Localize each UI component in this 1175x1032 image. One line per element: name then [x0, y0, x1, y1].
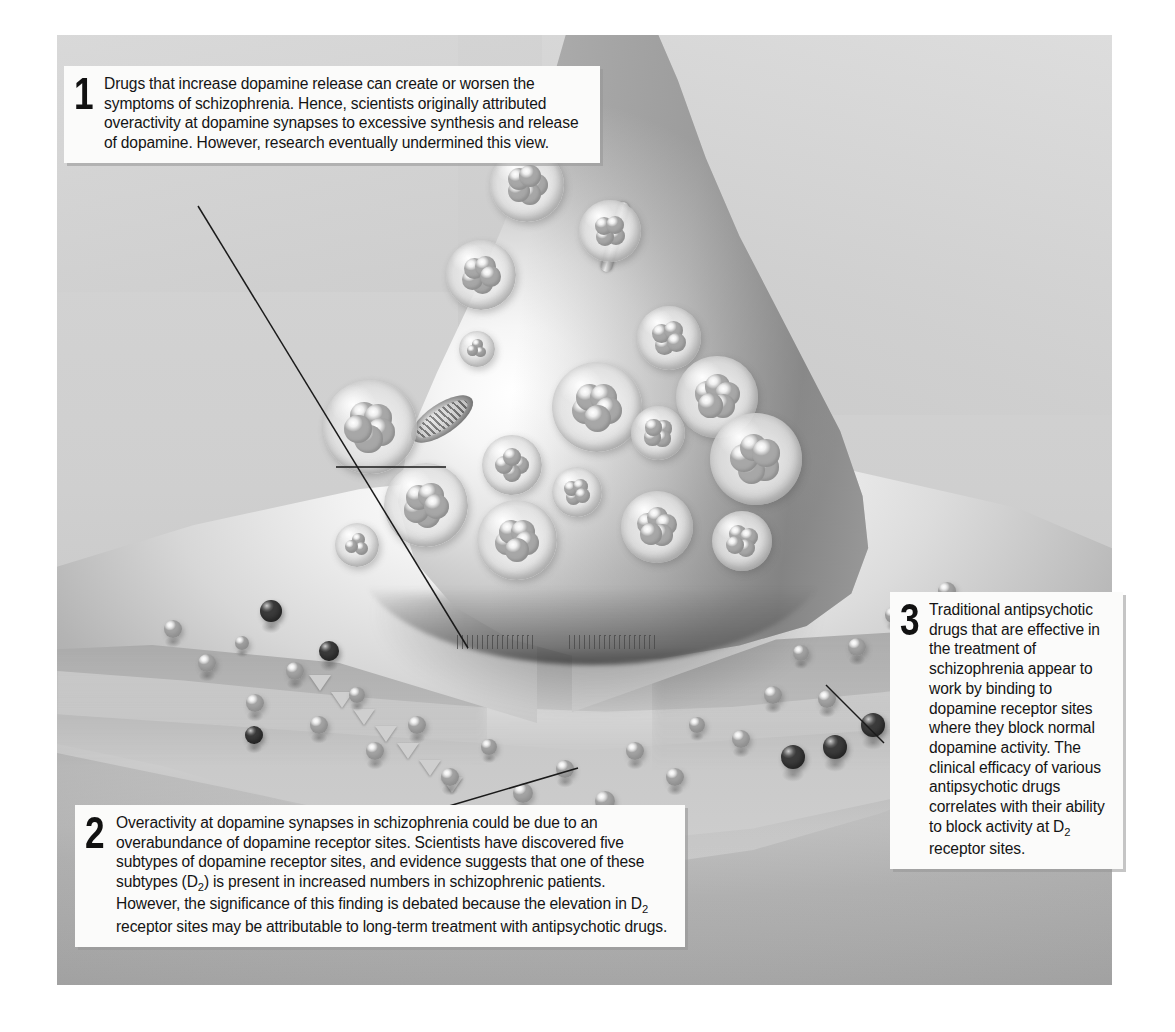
dopamine-molecule	[286, 662, 304, 680]
dopamine-molecule	[164, 620, 182, 638]
dopamine-molecule-in-vesicle	[698, 393, 723, 418]
dopamine-molecule-in-vesicle	[467, 345, 478, 356]
synaptic-vesicle	[637, 306, 701, 370]
synaptic-vesicle	[712, 511, 772, 571]
receptor-site	[375, 726, 397, 742]
callout-1-text: Drugs that increase dopamine release can…	[104, 74, 588, 153]
dopamine-molecule	[818, 690, 836, 708]
antipsychotic-drug-molecule	[319, 641, 339, 661]
subscript-d2-c: 2	[1064, 826, 1070, 838]
antipsychotic-drug-molecule	[260, 600, 282, 622]
dopamine-molecule	[626, 742, 644, 760]
dopamine-molecule	[408, 716, 426, 734]
dopamine-molecule-in-vesicle	[726, 536, 744, 554]
dopamine-molecule	[246, 694, 264, 712]
synaptic-vesicle	[482, 435, 542, 495]
subscript-d2-b: 2	[642, 904, 648, 916]
callout-3[interactable]: 3 Traditional antipsychotic drugs that a…	[890, 592, 1123, 869]
dopamine-molecule	[481, 739, 497, 755]
dopamine-molecule	[441, 768, 459, 786]
dopamine-molecule	[666, 768, 684, 786]
dopamine-molecule	[349, 687, 365, 703]
dopamine-molecule	[764, 686, 782, 704]
synaptic-vesicle	[477, 500, 557, 580]
synaptic-vesicle	[710, 413, 802, 505]
synaptic-vesicle	[384, 463, 468, 547]
dopamine-molecule-in-vesicle	[645, 419, 661, 435]
dopamine-molecule-in-vesicle	[640, 523, 662, 545]
dopamine-molecule	[556, 760, 574, 778]
callout-1[interactable]: 1 Drugs that increase dopamine release c…	[64, 66, 600, 163]
synaptic-vesicle	[579, 200, 641, 262]
synaptic-vesicle	[631, 406, 685, 460]
dopamine-molecule-in-vesicle	[575, 488, 590, 503]
synaptic-vesicle	[552, 467, 602, 517]
dopamine-molecule	[793, 645, 809, 661]
dopamine-molecule	[513, 783, 533, 803]
callout-1-number: 1	[74, 75, 92, 113]
dopamine-molecule	[310, 716, 328, 734]
vesicle-release-site	[569, 635, 655, 649]
dopamine-molecule-in-vesicle	[519, 165, 541, 187]
dopamine-molecule	[732, 730, 750, 748]
callout-3-text: Traditional antipsychotic drugs that are…	[929, 600, 1111, 859]
dopamine-molecule	[198, 654, 216, 672]
synaptic-vesicle	[335, 523, 379, 567]
dopamine-molecule-in-vesicle	[752, 439, 780, 467]
dopamine-molecule	[689, 717, 705, 733]
dopamine-molecule	[366, 742, 384, 760]
dopamine-molecule-in-vesicle	[424, 494, 449, 519]
callout-2-number: 2	[85, 814, 103, 852]
dopamine-molecule-in-vesicle	[505, 538, 529, 562]
dopamine-molecule	[848, 638, 866, 656]
dopamine-molecule-in-vesicle	[584, 405, 611, 432]
callout-2-text: Overactivity at dopamine synapses in sch…	[116, 813, 673, 937]
synaptic-vesicle	[621, 491, 693, 563]
dopamine-molecule	[235, 636, 249, 650]
antipsychotic-drug-molecule	[245, 726, 263, 744]
receptor-site	[309, 675, 331, 691]
callout-3-number: 3	[900, 601, 918, 639]
vesicle-release-site	[457, 635, 533, 649]
dopamine-molecule-in-vesicle	[667, 333, 686, 352]
antipsychotic-drug-molecule	[823, 735, 847, 759]
synaptic-vesicle	[552, 362, 642, 452]
synaptic-vesicle	[459, 331, 495, 367]
synaptic-vesicle	[446, 240, 516, 310]
callout-2[interactable]: 2 Overactivity at dopamine synapses in s…	[75, 805, 685, 947]
antipsychotic-drug-molecule	[781, 745, 805, 769]
dopamine-molecule-in-vesicle	[480, 266, 501, 287]
antipsychotic-drug-molecule	[861, 713, 885, 737]
synaptic-vesicle	[323, 380, 417, 474]
receptor-site	[419, 760, 441, 776]
